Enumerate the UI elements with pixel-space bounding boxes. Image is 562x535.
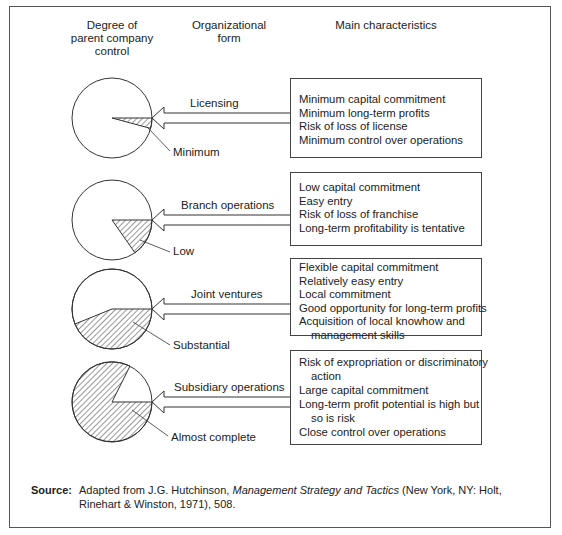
form-label-licensing: Licensing xyxy=(190,97,239,109)
characteristic-item: so is risk xyxy=(299,411,481,425)
control-label-joint: Substantial xyxy=(173,339,230,351)
characteristic-item: Flexible capital commitment xyxy=(299,261,481,275)
source-title: Management Strategy and Tactics xyxy=(232,484,399,496)
characteristic-item: Local commitment xyxy=(299,288,481,302)
characteristics-box-licensing: Minimum capital commitment Minimum long-… xyxy=(290,78,482,158)
source-prefix: Adapted from J.G. Hutchinson, xyxy=(79,484,232,496)
characteristic-item: Relatively easy entry xyxy=(299,275,481,289)
characteristic-item: Acquisition of local knowhow and xyxy=(299,315,481,329)
arrow-branch xyxy=(152,209,290,231)
characteristics-box-joint: Flexible capital commitment Relatively e… xyxy=(290,258,482,336)
source-text: Adapted from J.G. Hutchinson, Management… xyxy=(79,483,539,511)
characteristics-box-subsidiary: Risk of expropriation or discriminatory … xyxy=(290,350,482,445)
characteristic-item: Risk of expropriation or discriminatory xyxy=(299,355,481,369)
characteristics-box-branch: Low capital commitment Easy entry Risk o… xyxy=(290,172,482,246)
control-label-branch: Low xyxy=(173,245,194,257)
characteristic-item: Good opportunity for long-term profits xyxy=(299,302,481,316)
characteristic-item: Risk of loss of license xyxy=(299,120,481,134)
characteristic-item: Low capital commitment xyxy=(299,181,481,195)
arrow-joint xyxy=(152,298,290,320)
source-label: Source: xyxy=(31,483,72,497)
arrow-subsidiary xyxy=(152,391,290,413)
characteristic-item: Minimum control over operations xyxy=(299,134,481,148)
characteristic-item: Long-term profitability is tentative xyxy=(299,222,481,236)
characteristic-item: Minimum capital commitment xyxy=(299,93,481,107)
characteristic-item: management skills xyxy=(299,329,481,343)
characteristic-item: Close control over operations xyxy=(299,425,481,439)
characteristic-item: Large capital commitment xyxy=(299,383,481,397)
arrow-licensing xyxy=(152,107,290,129)
control-label-subsidiary: Almost complete xyxy=(171,431,256,443)
characteristic-item: Minimum long-term profits xyxy=(299,107,481,121)
form-label-subsidiary: Subsidiary operations xyxy=(174,381,285,393)
characteristic-item: Easy entry xyxy=(299,195,481,209)
form-label-branch: Branch operations xyxy=(181,199,274,211)
control-label-licensing: Minimum xyxy=(173,146,220,158)
characteristic-item: Long-term profit potential is high but xyxy=(299,397,481,411)
characteristic-item: Risk of loss of franchise xyxy=(299,208,481,222)
form-label-joint: Joint ventures xyxy=(191,288,263,300)
characteristic-item: action xyxy=(299,369,481,383)
